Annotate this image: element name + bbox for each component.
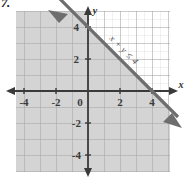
inequality-graph-figure: 7. [0, 0, 188, 179]
origin-label: 0 [77, 96, 83, 108]
x-tick-label-neg2: -2 [51, 96, 61, 108]
problem-number: 7. [1, 0, 10, 9]
x-tick-label-neg4: -4 [19, 96, 29, 108]
y-tick-label-2: 2 [74, 53, 80, 65]
coordinate-plane-svg: -4 -2 0 2 4 4 2 -2 -4 x y x + y ≤ 4 [0, 0, 188, 179]
x-tick-label-4: 4 [149, 96, 155, 108]
y-tick-label-neg4: -4 [72, 149, 82, 161]
x-tick-label-2: 2 [117, 96, 123, 108]
x-axis-label: x [178, 79, 184, 90]
y-axis-label: y [92, 5, 98, 16]
y-tick-label-neg2: -2 [72, 117, 82, 129]
y-tick-label-4: 4 [74, 21, 80, 33]
